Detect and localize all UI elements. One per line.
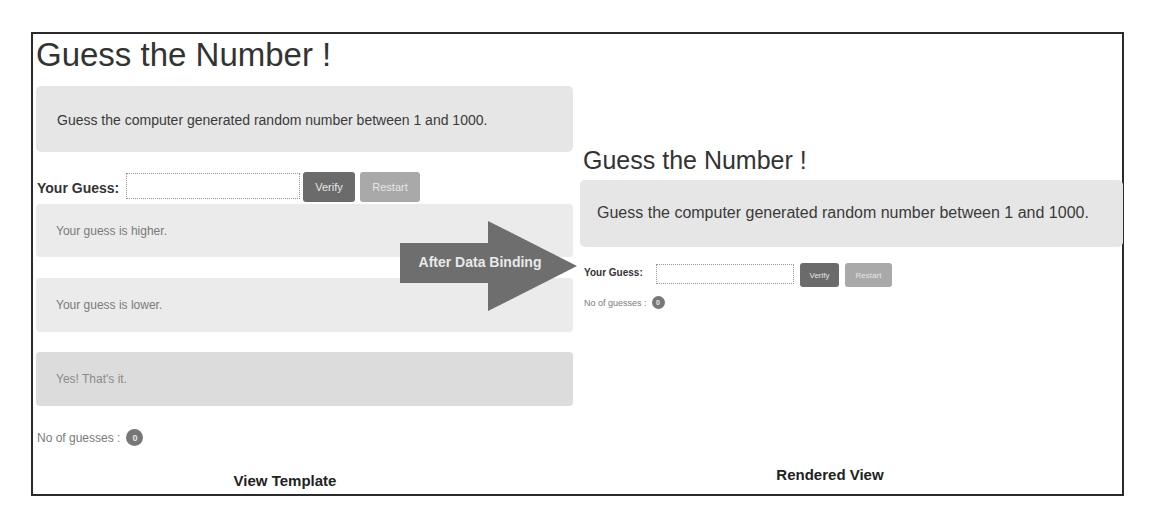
arrow-label: After Data Binding (400, 254, 560, 270)
rendered-page-title: Guess the Number ! (583, 146, 807, 175)
guess-label: Your Guess: (37, 180, 119, 196)
verify-button[interactable]: Verify (303, 172, 355, 202)
alert-success-text: Yes! That's it. (56, 372, 127, 386)
rendered-guess-label: Your Guess: (584, 267, 643, 278)
alert-higher-text: Your guess is higher. (56, 224, 167, 238)
rendered-guesses-count-line: No of guesses : 0 (584, 296, 665, 309)
rendered-guess-input[interactable] (656, 264, 794, 284)
rendered-restart-button[interactable]: Restart (845, 263, 892, 287)
rendered-instructions-text: Guess the computer generated random numb… (597, 204, 1089, 221)
alert-lower-text: Your guess is lower. (56, 298, 162, 312)
guesses-count-badge: 0 (126, 429, 143, 446)
rendered-guesses-count-badge: 0 (652, 296, 665, 309)
instructions-text: Guess the computer generated random numb… (57, 112, 487, 128)
instructions-jumbotron: Guess the computer generated random numb… (36, 86, 573, 152)
alert-success: Yes! That's it. (36, 352, 573, 406)
rendered-instructions-jumbotron: Guess the computer generated random numb… (580, 180, 1123, 247)
rendered-verify-button[interactable]: Verify (800, 263, 839, 287)
rendered-guesses-label: No of guesses : (584, 298, 647, 308)
page-title: Guess the Number ! (36, 36, 331, 74)
guess-input[interactable] (126, 173, 300, 199)
guesses-label: No of guesses : (37, 431, 120, 445)
view-template-caption: View Template (200, 472, 370, 489)
guesses-count-line: No of guesses : 0 (37, 429, 143, 446)
restart-button[interactable]: Restart (360, 172, 420, 202)
rendered-view-caption: Rendered View (745, 466, 915, 483)
